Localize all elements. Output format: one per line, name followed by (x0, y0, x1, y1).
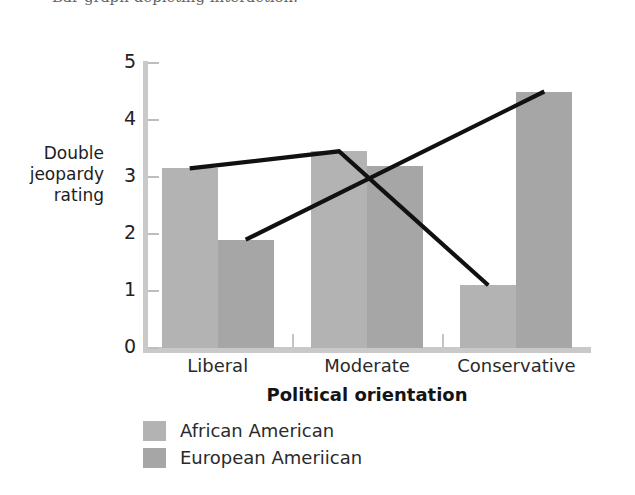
y-tick-2 (148, 233, 159, 235)
y-tick-4 (148, 119, 159, 121)
x-tick-divider-1 (292, 334, 294, 348)
y-axis-title-line-2: jeopardy (8, 164, 104, 185)
y-tick-0 (148, 347, 159, 349)
legend-label-european-american: European Ameriican (180, 447, 362, 468)
y-tick-label-0: 0 (106, 335, 136, 357)
x-tick-label-moderate: Moderate (287, 355, 447, 376)
bar-liberal-series-2 (218, 240, 274, 348)
y-tick-label-4: 4 (106, 107, 136, 129)
legend-swatch-african-american (143, 421, 166, 441)
bar-liberal-series-1 (162, 168, 218, 348)
bar-chart-figure: Double jeopardy rating 012345 LiberalMod… (0, 0, 635, 495)
x-tick-label-liberal: Liberal (138, 355, 298, 376)
chart-legend: African American European Ameriican (143, 417, 362, 471)
y-axis-title-line-3: rating (8, 185, 104, 206)
y-tick-label-2: 2 (106, 221, 136, 243)
y-axis-spine (143, 61, 148, 350)
y-tick-1 (148, 290, 159, 292)
y-tick-3 (148, 176, 159, 178)
x-tick-divider-2 (442, 334, 444, 348)
y-tick-5 (148, 62, 159, 64)
x-axis-title: Political orientation (143, 384, 591, 405)
y-tick-label-3: 3 (106, 164, 136, 186)
y-axis-title-line-1: Double (8, 143, 104, 164)
y-tick-label-5: 5 (106, 50, 136, 72)
bar-conservative-series-1 (460, 285, 516, 348)
y-tick-label-1: 1 (106, 278, 136, 300)
bar-moderate-series-1 (311, 151, 367, 348)
legend-item-series-b: European Ameriican (143, 444, 362, 471)
legend-label-african-american: African American (180, 420, 334, 441)
bar-moderate-series-2 (367, 166, 423, 348)
x-tick-label-conservative: Conservative (436, 355, 596, 376)
bar-conservative-series-2 (516, 92, 572, 349)
legend-item-series-a: African American (143, 417, 362, 444)
legend-swatch-european-american (143, 448, 166, 468)
y-axis-title: Double jeopardy rating (8, 143, 104, 206)
